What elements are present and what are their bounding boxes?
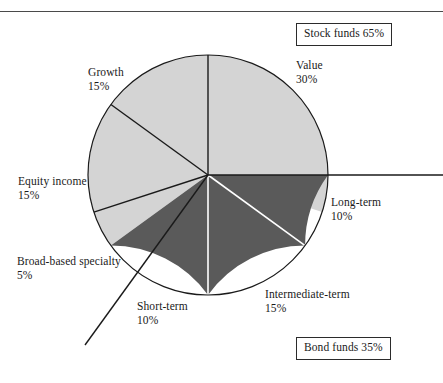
slice-label-equity-income: Equity income 15% [18,175,87,202]
slice-label-equity-income-percent: 15% [18,189,87,203]
bond-funds-callout: Bond funds 35% [296,337,391,360]
slice-label-growth: Growth 15% [88,66,124,93]
slice-label-short-term: Short-term 10% [137,300,188,327]
slice-label-value-name: Value [296,59,323,71]
slice-label-value-percent: 30% [296,73,323,87]
slice-label-long-term-name: Long-term [331,196,381,208]
slice-label-equity-income-name: Equity income [18,175,87,187]
slice-label-broad-based-specialty-name: Broad-based specialty [17,255,121,267]
pie-chart-page: Stock funds 65% Bond funds 35% Value 30%… [0,0,443,383]
slice-label-value: Value 30% [296,59,323,86]
slice-label-short-term-percent: 10% [137,314,188,328]
slice-label-long-term: Long-term 10% [331,196,381,223]
slice-label-intermediate-term-percent: 15% [265,302,350,316]
stock-funds-callout: Stock funds 65% [296,23,392,46]
slice-label-intermediate-term-name: Intermediate-term [265,288,350,300]
slice-label-intermediate-term: Intermediate-term 15% [265,288,350,315]
slice-label-long-term-percent: 10% [331,210,381,224]
slice-label-growth-name: Growth [88,66,124,78]
slice-label-broad-based-specialty-percent: 5% [17,269,121,283]
slice-label-broad-based-specialty: Broad-based specialty 5% [17,255,121,282]
slice-label-growth-percent: 15% [88,80,124,94]
slice-label-short-term-name: Short-term [137,300,188,312]
